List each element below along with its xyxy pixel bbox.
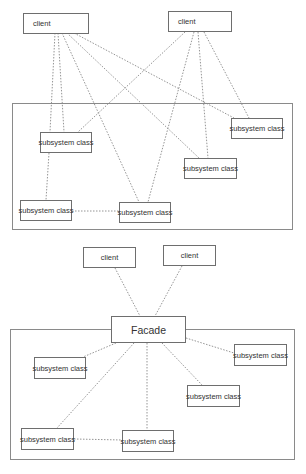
- top-subsystem-3-label: subsystem class: [183, 164, 238, 173]
- bottom-client-1: client: [83, 247, 136, 268]
- bottom-subsystem-5: subsystem class: [122, 430, 174, 452]
- facade-label: Facade: [131, 324, 166, 336]
- top-subsystem-4: subsystem class: [20, 200, 72, 221]
- bottom-subsystem-4-label: subsystem class: [20, 435, 75, 444]
- bottom-subsystem-2: subsystem class: [234, 344, 287, 366]
- top-client-1-label: client: [33, 19, 51, 28]
- top-subsystem-2: subsystem class: [231, 118, 283, 139]
- bottom-subsystem-5-label: subsystem class: [120, 437, 175, 446]
- bottom-subsystem-1-label: subsystem class: [32, 364, 87, 373]
- top-client-2-label: client: [178, 17, 196, 26]
- bottom-subsystem-4: subsystem class: [21, 428, 74, 450]
- bottom-client-2: client: [163, 245, 216, 266]
- top-subsystem-5-label: subsystem class: [117, 208, 172, 217]
- top-subsystem-1-label: subsystem class: [38, 138, 93, 147]
- top-subsystem-5: subsystem class: [119, 202, 171, 223]
- bottom-subsystem-3-label: subsystem class: [186, 392, 241, 401]
- bottom-client-1-label: client: [101, 253, 119, 262]
- bottom-subsystem-3: subsystem class: [187, 385, 240, 407]
- bottom-subsystem-2-label: subsystem class: [233, 351, 288, 360]
- top-client-1: client: [23, 13, 89, 34]
- facade-box: Facade: [111, 316, 186, 343]
- top-subsystem-4-label: subsystem class: [18, 206, 73, 215]
- top-subsystem-2-label: subsystem class: [229, 124, 284, 133]
- top-client-2: client: [168, 11, 232, 32]
- top-subsystem-1: subsystem class: [40, 132, 92, 153]
- top-subsystem-3: subsystem class: [184, 158, 237, 179]
- bottom-client-2-label: client: [181, 251, 199, 260]
- bottom-subsystem-1: subsystem class: [34, 357, 86, 379]
